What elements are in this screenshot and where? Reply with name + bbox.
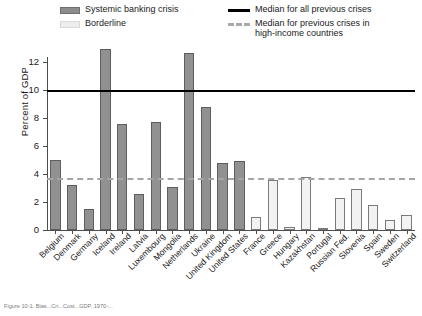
median-high-income-line: [47, 178, 415, 180]
bar-ireland: [117, 124, 127, 231]
y-tick-mark: [43, 62, 47, 63]
legend-label-median-all: Median for all previous crises: [255, 4, 372, 15]
x-axis-labels: BelgiumDenmarkGermanyIcelandIrelandLatvi…: [47, 231, 422, 301]
legend-column-lines: Median for all previous crises Median fo…: [228, 4, 422, 42]
bar-spain: [368, 205, 378, 230]
legend-item-median-high-income: Median for previous crises in high-incom…: [228, 18, 422, 39]
bar-united-kingdom: [217, 163, 227, 230]
bar-switzerland: [401, 215, 411, 230]
bar-united-states: [234, 161, 244, 230]
y-tick-mark: [43, 202, 47, 203]
bar-germany: [84, 209, 94, 230]
median-all-line-icon: [228, 9, 250, 12]
chart-legend: Systemic banking crisis Borderline Media…: [60, 4, 420, 46]
y-tick-mark: [43, 146, 47, 147]
y-tick-label: 4: [9, 168, 39, 179]
legend-column-swatches: Systemic banking crisis Borderline: [60, 4, 220, 31]
y-tick-mark: [43, 118, 47, 119]
bar-france: [251, 217, 261, 230]
bar-belgium: [50, 160, 60, 230]
y-tick-label: 2: [9, 196, 39, 207]
legend-item-median-all: Median for all previous crises: [228, 4, 422, 15]
legend-label-systemic: Systemic banking crisis: [85, 4, 179, 15]
bar-iceland: [100, 49, 110, 230]
y-tick-label: 12: [9, 56, 39, 67]
y-tick-label: 6: [9, 140, 39, 151]
bar-russian-fed: [335, 198, 345, 230]
plot-area: 024681012: [47, 45, 415, 230]
chart-figure: Systemic banking crisis Borderline Media…: [0, 0, 422, 316]
borderline-swatch-icon: [60, 21, 80, 28]
bar-netherlands: [184, 53, 194, 230]
bar-ukraine: [201, 107, 211, 230]
legend-label-borderline: Borderline: [85, 18, 126, 29]
legend-item-borderline: Borderline: [60, 18, 220, 29]
legend-item-systemic: Systemic banking crisis: [60, 4, 220, 15]
y-tick-mark: [43, 174, 47, 175]
bar-denmark: [67, 185, 77, 230]
y-tick-label: 0: [9, 224, 39, 235]
bar-luxembourg: [151, 122, 161, 230]
bar-sweden: [385, 220, 395, 230]
bar-greece: [268, 180, 278, 230]
bar-slovenia: [351, 189, 361, 230]
systemic-swatch-icon: [60, 7, 80, 14]
legend-label-median-high-income: Median for previous crises in high-incom…: [255, 18, 370, 39]
y-tick-label: 8: [9, 112, 39, 123]
bar-latvia: [134, 194, 144, 230]
figure-caption: Figure 10-1. Bias...Cri...Cost...GDP, 19…: [4, 303, 113, 309]
median-high-income-line-icon: [228, 23, 250, 26]
bar-kazakhstan: [301, 177, 311, 230]
y-axis-line: [47, 57, 48, 230]
y-tick-label: 10: [9, 84, 39, 95]
median-all-crises-line: [47, 90, 415, 92]
bar-mongolia: [167, 187, 177, 230]
